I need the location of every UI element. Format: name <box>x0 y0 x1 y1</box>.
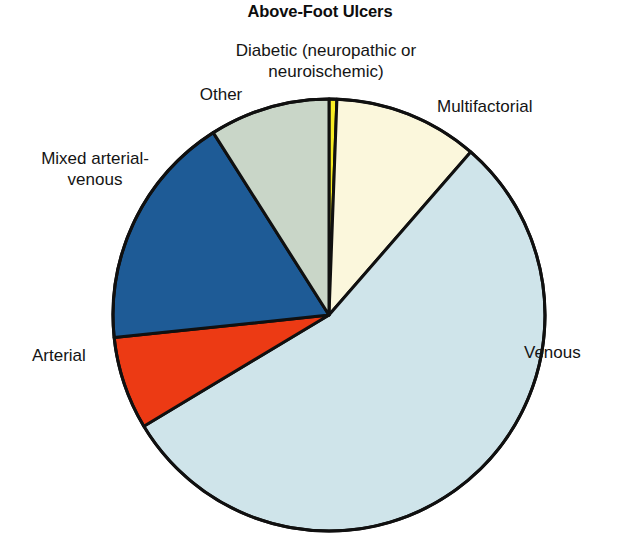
pie-label-mixed-arterial-venous: Mixed arterial- venous <box>12 148 178 190</box>
pie-label-arterial: Arterial <box>32 345 132 366</box>
pie-label-multifactorial: Multifactorial <box>437 96 617 117</box>
pie-label-diabetic: Diabetic (neuropathic or neuroischemic) <box>176 40 476 82</box>
pie-chart-graphic <box>0 0 640 557</box>
pie-chart-figure: Above-Foot Ulcers Diabetic (neuropathic … <box>0 0 640 557</box>
pie-label-other: Other <box>186 84 256 105</box>
pie-label-venous: Venous <box>524 342 634 363</box>
